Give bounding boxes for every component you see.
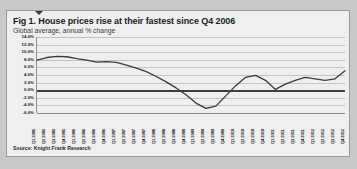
y-axis-tick-label: 12.0% — [22, 42, 34, 46]
plot-region — [36, 37, 345, 113]
x-axis-tick-label: Q1 2010 — [230, 129, 235, 144]
source-note: Source: Knight Frank Research — [13, 145, 91, 151]
x-axis-tick-label: Q4 2008 — [181, 129, 186, 144]
x-axis-tick-label: Q4 2010 — [260, 129, 265, 144]
x-axis-tick-label: Q2 2008 — [161, 129, 166, 144]
x-axis-tick-label: Q1 2007 — [111, 129, 116, 144]
y-axis-tick-label: 10.0% — [22, 50, 34, 54]
x-axis-tick-label: Q1 2012 — [310, 129, 315, 144]
x-axis-tick-label: Q4 2011 — [300, 129, 305, 144]
x-axis-tick-label: Q3 2012 — [330, 129, 335, 144]
y-axis-tick-label: 6.0% — [24, 65, 34, 69]
x-axis-tick-label: Q3 2006 — [91, 129, 96, 144]
x-axis-tick-label: Q1 2008 — [151, 129, 156, 144]
x-axis-tick-label: Q2 2010 — [240, 129, 245, 144]
x-axis-tick-label: Q1 2011 — [270, 129, 275, 144]
x-axis-tick-label: Q2 2011 — [280, 129, 285, 144]
y-axis-tick-label: 8.0% — [24, 58, 34, 62]
caret-icon — [35, 11, 43, 15]
x-axis-tick-label: Q4 2006 — [101, 129, 106, 144]
x-axis-tick-label: Q2 2012 — [320, 129, 325, 144]
x-axis-tick-label: Q4 2007 — [141, 129, 146, 144]
figure-title: Fig 1. House prices rise at their fastes… — [13, 16, 235, 26]
x-axis-tick-label: Q3 2008 — [171, 129, 176, 144]
y-axis-tick-label: 0.0% — [24, 88, 34, 92]
price-growth-line — [37, 37, 345, 113]
x-axis-tick-label: Q2 2006 — [81, 129, 86, 144]
x-axis-tick-label: Q1 2005 — [31, 129, 36, 144]
x-axis-tick-label: Q1 2006 — [71, 129, 76, 144]
x-axis-tick-label: Q3 2011 — [290, 129, 295, 144]
x-axis-tick-label: Q3 2009 — [210, 129, 215, 144]
y-axis-tick-label: -2.0% — [23, 96, 34, 100]
x-axis-tick-label: Q4 2012 — [340, 129, 345, 144]
x-axis-labels: Q1 2005Q2 2005Q3 2005Q4 2005Q1 2006Q2 20… — [36, 114, 345, 144]
x-axis-tick-label: Q2 2009 — [200, 129, 205, 144]
y-axis-tick-label: 14.0% — [22, 35, 34, 39]
figure-panel: Fig 1. House prices rise at their fastes… — [6, 10, 350, 157]
x-axis-tick-label: Q4 2009 — [220, 129, 225, 144]
y-axis-tick-label: -6.0% — [23, 111, 34, 115]
x-axis-tick-label: Q2 2007 — [121, 129, 126, 144]
chart-area: 14.0%12.0%10.0%8.0%6.0%4.0%2.0%0.0%-2.0%… — [13, 37, 345, 121]
y-axis-labels: 14.0%12.0%10.0%8.0%6.0%4.0%2.0%0.0%-2.0%… — [13, 37, 35, 113]
y-axis-tick-label: -4.0% — [23, 103, 34, 107]
x-axis-tick-label: Q3 2005 — [51, 129, 56, 144]
x-axis-tick-label: Q3 2007 — [131, 129, 136, 144]
y-axis-tick-label: 2.0% — [24, 80, 34, 84]
x-axis-tick-label: Q1 2009 — [190, 129, 195, 144]
y-axis-tick-label: 4.0% — [24, 73, 34, 77]
x-axis-tick-label: Q2 2005 — [41, 129, 46, 144]
x-axis-tick-label: Q4 2005 — [61, 129, 66, 144]
x-axis-tick-label: Q3 2010 — [250, 129, 255, 144]
